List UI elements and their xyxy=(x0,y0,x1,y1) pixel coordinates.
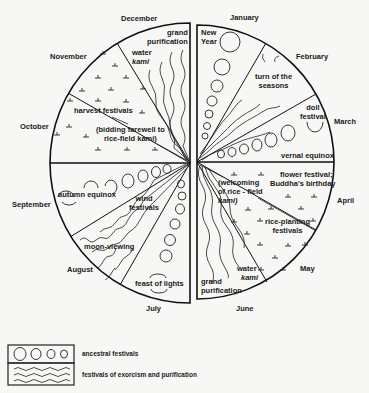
text-line: kami xyxy=(132,57,152,66)
label-doll-festival: doll festival xyxy=(300,103,326,121)
month-label-february: February xyxy=(296,52,328,61)
label-grand-purification-june: grand purification xyxy=(201,277,242,295)
text-line: wind xyxy=(129,194,159,203)
month-label-january: January xyxy=(230,13,259,22)
text-line: kami) xyxy=(218,196,263,205)
label-water-kami-december: water kami xyxy=(132,48,152,66)
text-line: festival xyxy=(300,112,326,121)
month-label-september: September xyxy=(12,200,51,209)
text-line: rice-planting xyxy=(265,217,310,226)
month-label-march: March xyxy=(334,117,356,126)
month-label-june: June xyxy=(236,304,254,313)
text-line: doll xyxy=(300,103,326,112)
text-line: of rice - field xyxy=(218,187,263,196)
month-label-may: May xyxy=(300,264,315,273)
label-flower-festival: flower festival; Buddha's birthday xyxy=(280,170,336,188)
label-bidding-farewell: (bidding farewell to rice-field kami) xyxy=(96,125,165,143)
month-label-july: July xyxy=(146,304,161,313)
text-line: Buddha's birthday xyxy=(270,179,336,188)
right-half-circle xyxy=(197,25,334,299)
label-harvest-festivals: harvest festivals xyxy=(74,106,133,115)
text-line: water xyxy=(237,264,258,273)
label-moon-viewing: moon-viewing xyxy=(84,242,134,251)
label-autumn-equinox: autumn equinox xyxy=(58,190,116,199)
label-turn-of-seasons: turn of the seasons xyxy=(255,72,292,90)
label-welcoming-rice-field-kami: (welcoming of rice - field kami) xyxy=(218,178,263,205)
legend-ancestral-festivals: ancestral festivals xyxy=(82,350,138,357)
label-wind-festivals: wind festivals xyxy=(129,194,159,212)
text-line: grand xyxy=(201,277,242,286)
text-line: kami xyxy=(241,273,258,282)
legend-exorcism-purification: festivals of exorcism and purification xyxy=(82,371,197,378)
label-feast-of-lights: feast of lights xyxy=(135,279,184,288)
text-line: water xyxy=(132,48,152,57)
january-ancestral-circles xyxy=(202,32,240,139)
text-line: (welcoming xyxy=(218,178,263,187)
label-vernal-equinox: vernal equinox xyxy=(281,151,334,160)
text-line: rice-field kami) xyxy=(96,134,165,143)
text-line: Year xyxy=(201,37,217,46)
label-rice-planting-festivals: rice-planting festivals xyxy=(265,217,310,235)
month-label-october: October xyxy=(20,122,49,131)
label-new-year: New Year xyxy=(201,28,217,46)
text-line: grand xyxy=(167,28,188,37)
label-grand-purification-december: grand purification xyxy=(167,28,188,46)
month-label-august: August xyxy=(67,265,93,274)
text-line: New xyxy=(201,28,217,37)
text-line: purification xyxy=(201,286,242,295)
text-line: turn of the xyxy=(255,72,292,81)
legend-boxes xyxy=(8,345,74,385)
text-line: seasons xyxy=(255,81,292,90)
month-label-april: April xyxy=(337,196,354,205)
wind-festival-waves xyxy=(80,164,189,280)
text-line: festivals xyxy=(265,226,310,235)
month-label-december: December xyxy=(121,14,157,23)
month-label-november: November xyxy=(50,52,87,61)
text-line: festivals xyxy=(129,203,159,212)
text-line: (bidding farewell to xyxy=(96,125,165,134)
text-line: flower festival; xyxy=(280,170,336,179)
february-purification-waves xyxy=(200,54,280,160)
text-line: purification xyxy=(147,37,188,46)
